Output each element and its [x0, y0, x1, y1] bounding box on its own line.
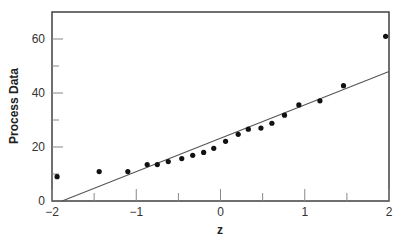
data-point	[125, 169, 130, 174]
x-tick-label: −1	[129, 205, 143, 219]
y-tick-label: 20	[32, 140, 46, 154]
y-axis-ticks: 0204060	[32, 32, 63, 208]
data-point	[155, 162, 160, 167]
fitted-line-segment	[62, 71, 389, 201]
y-tick-label: 60	[32, 32, 46, 46]
plot-frame	[52, 12, 389, 201]
data-point	[383, 34, 388, 39]
data-point	[211, 146, 216, 151]
data-point	[179, 156, 184, 161]
x-tick-label: 2	[386, 205, 393, 219]
x-tick-label: −2	[45, 205, 59, 219]
y-tick-label: 0	[38, 194, 45, 208]
data-point	[223, 139, 228, 144]
data-point	[201, 150, 206, 155]
data-point	[317, 98, 322, 103]
x-tick-label: 1	[301, 205, 308, 219]
x-axis-ticks: −2−1012	[45, 189, 393, 219]
x-axis-title: z	[217, 223, 223, 237]
data-point	[190, 153, 195, 158]
y-axis-title: Process Data	[7, 68, 21, 144]
data-points	[54, 34, 388, 180]
normal-probability-plot: −2−1012 0204060 z Process Data	[0, 0, 411, 246]
y-tick-label: 40	[32, 86, 46, 100]
data-point	[282, 113, 287, 118]
x-tick-label: 0	[217, 205, 224, 219]
fitted-line	[62, 71, 389, 201]
data-point	[269, 121, 274, 126]
data-point	[145, 162, 150, 167]
data-point	[258, 126, 263, 131]
data-point	[166, 159, 171, 164]
data-point	[54, 174, 59, 179]
data-point	[296, 102, 301, 107]
data-point	[97, 169, 102, 174]
data-point	[236, 132, 241, 137]
plot-border	[52, 12, 389, 201]
data-point	[341, 83, 346, 88]
data-point	[246, 127, 251, 132]
